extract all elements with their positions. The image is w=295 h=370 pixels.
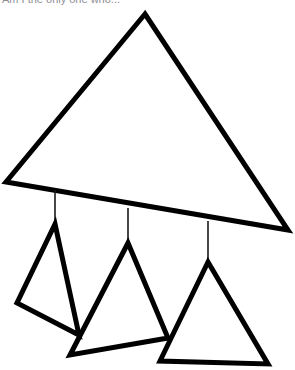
hanging-triangle-mobile-figure bbox=[0, 0, 295, 370]
small-triangle-right bbox=[160, 262, 268, 364]
small-triangle-middle bbox=[70, 243, 168, 355]
drawing-canvas: Am I the only one who... bbox=[0, 0, 295, 370]
small-triangle-left bbox=[17, 224, 79, 335]
large-triangle bbox=[6, 14, 288, 230]
